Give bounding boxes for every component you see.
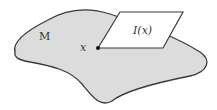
plane-label: I(x) <box>132 24 152 37</box>
manifold-diagram: M x I(x) <box>0 0 217 110</box>
point-x <box>96 46 100 50</box>
manifold-shape <box>15 10 207 103</box>
manifold-label: M <box>39 30 50 43</box>
point-label: x <box>80 41 87 54</box>
